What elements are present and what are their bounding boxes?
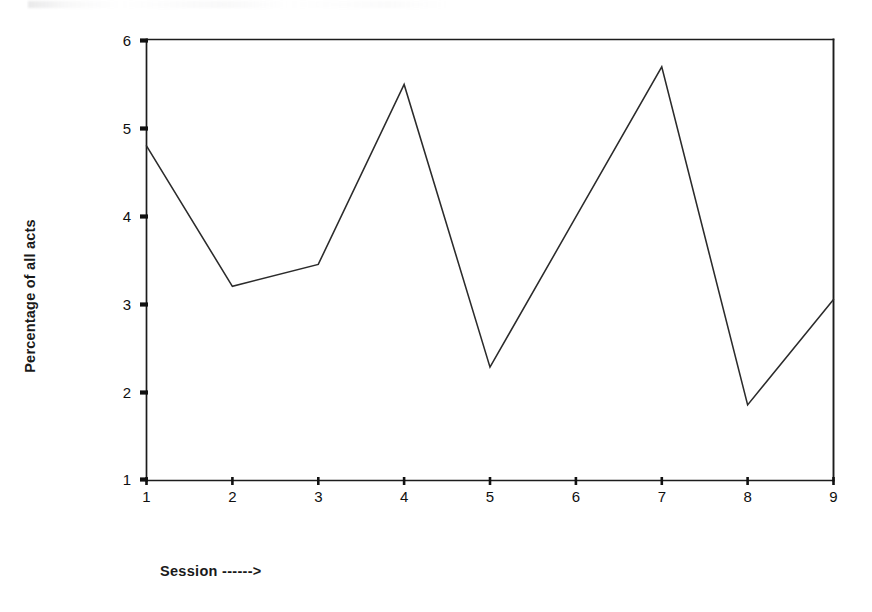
y-tick-label-1: 1: [105, 472, 131, 487]
x-tick-label-3: 3: [306, 489, 330, 504]
figure: 6 5 4 3 2 1 1 2 3 4 5 6 7 8 9 Percentage…: [0, 0, 872, 612]
x-tick-label-7: 7: [650, 489, 674, 504]
x-tick-label-6: 6: [564, 489, 588, 504]
x-tick-label-4: 4: [392, 489, 416, 504]
y-tick-label-3: 3: [105, 297, 131, 312]
x-axis-title: Session ------>: [160, 563, 262, 579]
x-tick-label-5: 5: [478, 489, 502, 504]
x-tick-label-2: 2: [220, 489, 244, 504]
y-tick-label-6: 6: [105, 33, 131, 48]
x-tick-label-9: 9: [822, 489, 846, 504]
y-tick-label-4: 4: [105, 209, 131, 224]
x-tick-label-8: 8: [736, 489, 760, 504]
x-tick-label-1: 1: [135, 489, 159, 504]
y-tick-label-2: 2: [105, 385, 131, 400]
y-tick-label-5: 5: [105, 121, 131, 136]
